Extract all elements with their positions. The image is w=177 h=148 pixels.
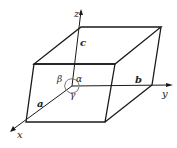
- unit-cell-diagram: z y x c b a α β γ: [0, 0, 177, 148]
- alpha-label: α: [76, 75, 82, 84]
- z-axis-label: z: [74, 9, 79, 19]
- x-axis-label: x: [17, 130, 23, 140]
- beta-label: β: [57, 75, 62, 84]
- parallelepiped-drawing: [0, 0, 177, 148]
- y-axis-label: y: [162, 89, 168, 99]
- edge-a-label: a: [37, 99, 43, 109]
- y-axis-line: [72, 85, 170, 86]
- y-arrow-icon: [166, 83, 173, 87]
- edge-b-label: b: [135, 75, 142, 85]
- z-arrow-icon: [79, 9, 83, 15]
- right-bottom-edge: [105, 85, 152, 122]
- x-arrow-icon: [10, 126, 16, 132]
- top-face: [34, 27, 161, 64]
- gamma-label: γ: [70, 91, 75, 100]
- edge-c-label: c: [80, 38, 86, 48]
- right-back-edge: [152, 27, 161, 85]
